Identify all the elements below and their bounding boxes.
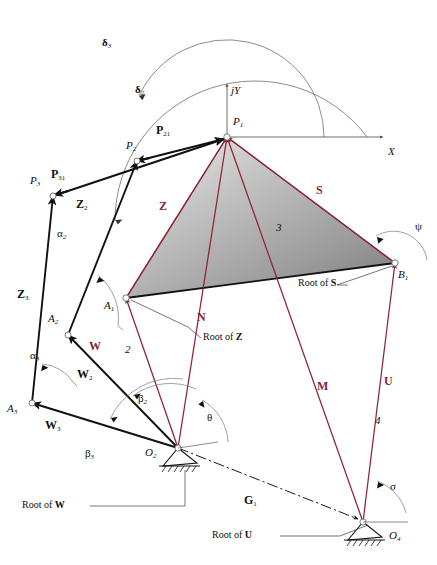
P31-tail-arrow [54,191,68,195]
callout-root-of-w: Root of W [22,500,65,510]
vector-label-W2: W2 [77,368,93,382]
joint-A2 [65,332,71,338]
vector-W [126,298,178,448]
point-label-P2: P2 [126,140,136,153]
callout-leaders [90,266,392,536]
vector-label-P21: P21 [156,124,170,138]
alpha3-arc [42,364,73,382]
delta3-arrowhead [116,219,123,224]
alpha2-leader [118,326,123,330]
point-label-O2: O2 [145,447,156,460]
angle-label-delta2: δ2 [135,84,144,97]
vector-label-P31: P31 [51,168,65,182]
vector-label-M: M [317,380,328,392]
figure-canvas: X jY P1 P2 P3 A1 A2 A3 B1 O2 O4 Z S N M … [0,0,437,565]
vector-label-U: U [384,375,393,387]
angle-label-beta2: β2 [138,393,147,406]
point-label-B1: B1 [398,269,408,282]
angle-label-alpha3: α3 [30,350,39,363]
vector-P21 [137,139,224,161]
alpha3-arrowhead [41,365,48,371]
angle-label-psi: ψ [415,221,422,232]
beta3-arrowhead [111,417,118,423]
psi-arrowhead [377,237,384,244]
point-label-P3: P3 [30,175,40,188]
vector-G1-ground-link [178,448,358,519]
vector-label-S: S [316,184,323,196]
vector-label-W: W [89,340,101,352]
pivot-O2-hatch [162,466,196,472]
angle-label-theta: θ [207,412,212,423]
pivot-O2 [159,442,218,472]
angle-label-delta3: δ3 [102,37,111,50]
point-label-A3: A3 [7,403,17,416]
alpha3-leader [73,382,77,386]
vector-label-N: N [197,311,206,323]
pivot-O4-hatch [347,540,381,546]
root-of-w-leader [90,470,185,506]
callout-root-of-u: Root of U [212,530,252,540]
link-number-2: 2 [125,344,131,355]
theta-arc [202,400,228,442]
joint-A1 [123,295,129,301]
angle-label-sigma: σ [390,481,396,492]
axes-group [227,84,383,137]
joint-P1 [224,134,230,140]
vector-label-Z2: Z2 [76,198,88,212]
coupler-body-triangle [126,137,395,298]
link-number-4: 4 [375,415,381,426]
joint-B1 [392,260,398,266]
vector-label-Z3: Z3 [17,288,29,302]
y-axis-label: jY [231,85,240,96]
point-label-A2: A2 [48,313,58,326]
point-label-P1: P1 [233,116,243,129]
joint-P2 [134,158,140,164]
joint-P3 [50,193,56,199]
black-vectors [32,139,224,448]
vector-Z3 [32,196,53,403]
callout-root-of-z: Root of Z [203,332,242,342]
root-of-z-leader [131,300,201,338]
vector-label-G1: G1 [244,494,257,508]
kinematic-diagram [0,0,437,565]
point-label-A1: A1 [104,300,114,313]
point-label-P1-text: P [233,115,240,127]
vector-label-W3: W3 [45,419,61,433]
callout-root-of-s: Root of S [298,278,336,288]
vector-label-Z: Z [159,200,167,212]
sigma-arrowhead [377,482,384,488]
angle-label-alpha2: α2 [57,228,66,241]
link-number-3: 3 [276,222,282,233]
theta-arrowhead [198,401,204,408]
pivot-O2-ref-line [178,442,218,448]
angle-label-beta3: β3 [85,448,94,461]
x-axis-label: X [388,146,395,157]
point-label-O4: O4 [389,530,400,543]
joint-A3 [29,400,35,406]
